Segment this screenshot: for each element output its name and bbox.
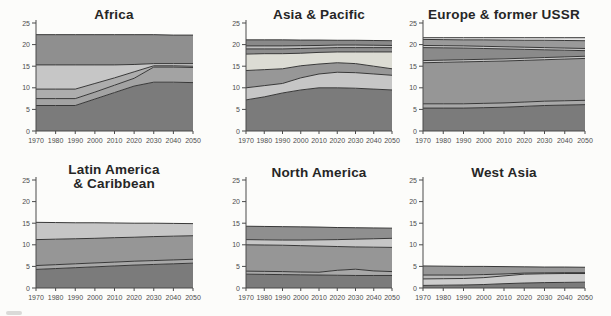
svg-text:0: 0	[236, 128, 240, 135]
svg-text:1970: 1970	[415, 294, 431, 301]
svg-text:2000: 2000	[476, 137, 492, 144]
chart-europe-former-ussr: Europe & former USSR 0510152025197019801…	[405, 0, 611, 158]
svg-text:15: 15	[232, 63, 240, 70]
svg-text:1980: 1980	[435, 294, 451, 301]
svg-text:2020: 2020	[329, 294, 345, 301]
svg-text:2030: 2030	[146, 294, 162, 301]
chart-africa: Africa 051015202519701980199020002010202…	[0, 0, 205, 158]
svg-text:5: 5	[26, 263, 30, 270]
svg-text:20: 20	[409, 41, 417, 48]
svg-text:15: 15	[22, 220, 30, 227]
svg-text:2000: 2000	[87, 137, 103, 144]
svg-text:25: 25	[22, 20, 30, 27]
svg-text:20: 20	[22, 41, 30, 48]
chart-plot-asia-pacific: 0510152025197019801990200020102020203020…	[205, 0, 405, 158]
svg-text:1990: 1990	[456, 137, 472, 144]
svg-text:2010: 2010	[496, 294, 512, 301]
svg-text:2040: 2040	[557, 137, 573, 144]
svg-text:25: 25	[232, 20, 240, 27]
svg-text:2050: 2050	[384, 294, 400, 301]
svg-text:2020: 2020	[516, 294, 532, 301]
svg-text:1990: 1990	[456, 294, 472, 301]
svg-text:20: 20	[22, 198, 30, 205]
svg-text:0: 0	[236, 285, 240, 292]
svg-text:20: 20	[409, 198, 417, 205]
svg-text:2010: 2010	[496, 137, 512, 144]
svg-text:1970: 1970	[238, 137, 254, 144]
svg-text:1980: 1980	[256, 294, 272, 301]
chart-plot-europe-former-ussr: 0510152025197019801990200020102020203020…	[405, 0, 611, 158]
svg-text:25: 25	[232, 177, 240, 184]
svg-text:2000: 2000	[293, 294, 309, 301]
svg-text:0: 0	[26, 285, 30, 292]
svg-text:0: 0	[413, 128, 417, 135]
svg-text:20: 20	[232, 41, 240, 48]
svg-text:1980: 1980	[435, 137, 451, 144]
chart-latin-america-caribbean: Latin America& Caribbean 051015202519701…	[0, 158, 205, 316]
svg-text:2030: 2030	[146, 137, 162, 144]
svg-text:2010: 2010	[107, 137, 123, 144]
svg-text:15: 15	[22, 63, 30, 70]
svg-text:1980: 1980	[48, 294, 64, 301]
svg-text:10: 10	[232, 84, 240, 91]
svg-text:2000: 2000	[87, 294, 103, 301]
svg-text:0: 0	[26, 128, 30, 135]
svg-text:1970: 1970	[28, 137, 44, 144]
svg-text:10: 10	[22, 241, 30, 248]
svg-text:2050: 2050	[577, 294, 593, 301]
svg-text:2010: 2010	[107, 294, 123, 301]
svg-text:1980: 1980	[256, 137, 272, 144]
svg-text:10: 10	[409, 84, 417, 91]
svg-text:2040: 2040	[557, 294, 573, 301]
svg-text:2030: 2030	[348, 294, 364, 301]
svg-text:25: 25	[409, 177, 417, 184]
svg-text:2030: 2030	[537, 137, 553, 144]
svg-text:2030: 2030	[537, 294, 553, 301]
svg-text:20: 20	[232, 198, 240, 205]
chart-plot-latin-america-caribbean: 0510152025197019801990200020102020203020…	[0, 158, 205, 316]
svg-text:2020: 2020	[126, 137, 142, 144]
svg-text:5: 5	[413, 106, 417, 113]
svg-text:0: 0	[413, 285, 417, 292]
svg-text:2020: 2020	[516, 137, 532, 144]
svg-text:25: 25	[22, 177, 30, 184]
svg-text:2010: 2010	[311, 137, 327, 144]
svg-text:2050: 2050	[577, 137, 593, 144]
svg-text:1990: 1990	[275, 294, 291, 301]
svg-text:5: 5	[236, 263, 240, 270]
chart-asia-pacific: Asia & Pacific 0510152025197019801990200…	[205, 0, 405, 158]
chart-plot-north-america: 0510152025197019801990200020102020203020…	[205, 158, 405, 316]
svg-text:15: 15	[232, 220, 240, 227]
svg-text:1970: 1970	[28, 294, 44, 301]
svg-text:2040: 2040	[166, 137, 182, 144]
chart-west-asia: West Asia 051015202519701980199020002010…	[405, 158, 611, 316]
svg-text:1990: 1990	[67, 294, 83, 301]
svg-text:5: 5	[413, 263, 417, 270]
svg-text:2020: 2020	[126, 294, 142, 301]
svg-text:2040: 2040	[166, 294, 182, 301]
svg-text:2010: 2010	[311, 294, 327, 301]
chart-plot-west-asia: 0510152025197019801990200020102020203020…	[405, 158, 611, 316]
svg-text:5: 5	[26, 106, 30, 113]
svg-text:5: 5	[236, 106, 240, 113]
svg-text:1990: 1990	[67, 137, 83, 144]
svg-text:2030: 2030	[348, 137, 364, 144]
svg-text:2000: 2000	[476, 294, 492, 301]
svg-text:15: 15	[409, 63, 417, 70]
svg-text:2020: 2020	[329, 137, 345, 144]
svg-text:10: 10	[22, 84, 30, 91]
svg-text:10: 10	[232, 241, 240, 248]
svg-text:2000: 2000	[293, 137, 309, 144]
svg-text:2050: 2050	[185, 137, 201, 144]
svg-text:1970: 1970	[238, 294, 254, 301]
chart-plot-africa: 0510152025197019801990200020102020203020…	[0, 0, 205, 158]
svg-text:2050: 2050	[185, 294, 201, 301]
svg-text:2040: 2040	[366, 137, 382, 144]
chart-north-america: North America 05101520251970198019902000…	[205, 158, 405, 316]
svg-text:25: 25	[409, 20, 417, 27]
svg-text:2040: 2040	[366, 294, 382, 301]
svg-text:15: 15	[409, 220, 417, 227]
six-region-stacked-area-figure: Africa 051015202519701980199020002010202…	[0, 0, 611, 316]
svg-text:1980: 1980	[48, 137, 64, 144]
svg-text:1970: 1970	[415, 137, 431, 144]
